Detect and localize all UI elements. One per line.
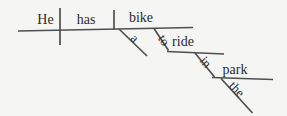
verb-word: has [77, 13, 96, 27]
direct-object-word: bike [129, 11, 153, 25]
sentence-diagram: He has bike a to ride in park the [0, 0, 287, 116]
subject-word: He [37, 13, 53, 27]
prep-object-word: park [223, 63, 248, 77]
infinitive-verb-word: ride [172, 35, 194, 49]
